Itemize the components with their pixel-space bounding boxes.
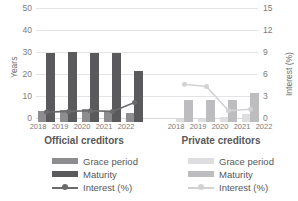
legend-item-private-maturity: Maturity xyxy=(188,167,274,180)
legend-swatch-grace-icon xyxy=(188,158,214,164)
ytick-left-50: 50 xyxy=(10,4,32,12)
ytick-left-30: 30 xyxy=(10,48,32,56)
legend-label-official-grace: Grace period xyxy=(83,156,138,167)
xtick-private-2022: 2022 xyxy=(251,122,277,131)
legend-label-official-maturity: Maturity xyxy=(83,169,117,180)
legend-swatch-maturity-icon xyxy=(188,171,214,177)
chart-container: 50 40 30 20 10 0 15 12 9 6 3 0 Years Int… xyxy=(0,0,298,201)
point-official-interest-2019 xyxy=(66,109,71,114)
legend-label-private-grace: Grace period xyxy=(219,156,274,167)
group-label-private: Private creditors xyxy=(161,135,281,147)
legend-item-private-interest: Interest (%) xyxy=(188,180,274,193)
legend-official: Grace period Maturity Interest (%) xyxy=(52,154,138,193)
legend-line-marker-icon xyxy=(52,184,78,190)
legend-private: Grace period Maturity Interest (%) xyxy=(188,154,274,193)
legend-label-official-interest: Interest (%) xyxy=(83,182,132,193)
xtick-official-2022: 2022 xyxy=(113,122,139,131)
point-official-interest-2018 xyxy=(44,110,49,115)
ytick-right-12: 12 xyxy=(263,26,285,34)
ytick-right-3: 3 xyxy=(263,92,285,100)
point-private-interest-2021 xyxy=(226,108,231,113)
ytick-right-6: 6 xyxy=(263,70,285,78)
point-official-interest-2022 xyxy=(132,100,137,105)
ytick-left-40: 40 xyxy=(10,26,32,34)
ytick-right-15: 15 xyxy=(263,4,285,12)
point-private-interest-2019 xyxy=(182,82,187,87)
legend-item-official-grace: Grace period xyxy=(52,154,138,167)
legend-line-marker-icon xyxy=(188,184,214,190)
ytick-right-0: 0 xyxy=(263,114,285,122)
ytick-left-0: 0 xyxy=(10,114,32,122)
ytick-right-9: 9 xyxy=(263,48,285,56)
ytick-left-10: 10 xyxy=(10,92,32,100)
y-axis-title-right: Interest (%) xyxy=(284,52,294,96)
plot-area xyxy=(36,8,258,122)
legend-swatch-maturity-icon xyxy=(52,171,78,177)
legend-label-private-interest: Interest (%) xyxy=(219,182,268,193)
legend-swatch-grace-icon xyxy=(52,158,78,164)
line-private-interest xyxy=(185,84,251,110)
legend-item-official-maturity: Maturity xyxy=(52,167,138,180)
y-axis-title-left: Years xyxy=(9,57,19,78)
point-private-interest-2022 xyxy=(248,107,253,112)
legend-item-official-interest: Interest (%) xyxy=(52,180,138,193)
interest-lines-overlay xyxy=(36,8,258,122)
legend-label-private-maturity: Maturity xyxy=(219,169,253,180)
point-official-interest-2020 xyxy=(88,108,93,113)
group-label-official: Official creditors xyxy=(24,135,144,147)
legend-item-private-grace: Grace period xyxy=(188,154,274,167)
point-official-interest-2021 xyxy=(110,109,115,114)
point-private-interest-2020 xyxy=(204,84,209,89)
